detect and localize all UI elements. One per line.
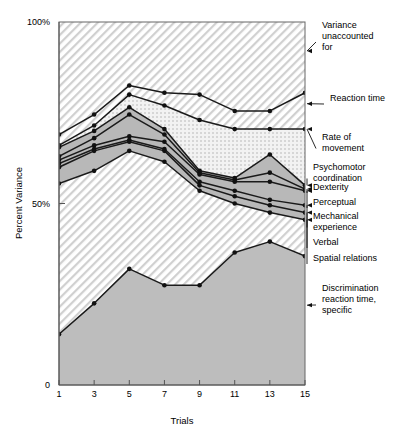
annotation-line: Variance [322, 20, 357, 30]
annotation-rate-of-movement: Rate ofmovement [322, 132, 365, 153]
annotation-line: movement [322, 143, 365, 153]
annotation-dexterity: Dexterity [313, 182, 349, 192]
annotation-line: specific [322, 305, 353, 315]
series-marker [197, 118, 202, 123]
series-marker [268, 179, 273, 184]
leader-arrow-variance-unaccounted-for [307, 49, 312, 53]
annotation-verbal: Verbal [313, 237, 339, 247]
series-marker [92, 301, 97, 306]
leader-line-rate-of-movement [307, 129, 316, 148]
series-marker [162, 103, 167, 108]
x-tick-15: 15 [300, 389, 310, 399]
series-marker [268, 210, 273, 215]
leader-arrow-discrimination-reaction-time [307, 303, 312, 307]
annotation-line: Perceptual [313, 197, 356, 207]
series-marker [127, 83, 132, 88]
annotation-line: Discrimination [322, 283, 379, 293]
y-tick-50: 50% [32, 199, 50, 209]
series-marker [268, 127, 273, 132]
annotation-line: Verbal [313, 237, 339, 247]
series-marker [127, 267, 132, 272]
annotation-spatial-relations: Spatial relations [313, 253, 378, 263]
x-tick-9: 9 [197, 389, 202, 399]
series-marker [232, 194, 237, 199]
chart-canvas: 100%50%013579111315 Varianceunaccountedf… [0, 0, 403, 437]
series-marker [232, 109, 237, 114]
series-marker [197, 283, 202, 288]
series-marker [268, 239, 273, 244]
series-marker [268, 198, 273, 203]
x-tick-1: 1 [56, 389, 61, 399]
y-axis-title: Percent Variance [13, 167, 24, 239]
x-tick-13: 13 [265, 389, 275, 399]
leader-arrow-mechanical-experience [307, 203, 312, 207]
series-marker [268, 203, 273, 208]
annotation-line: Mechanical [313, 211, 359, 221]
annotation-mechanical-experience: Mechanicalexperience [313, 211, 359, 232]
series-marker [162, 159, 167, 164]
series-marker [197, 183, 202, 188]
series-marker [268, 170, 273, 175]
annotation-line: for [322, 42, 333, 52]
annotation-discrimination-reaction-time: Discriminationreaction time,specific [322, 283, 379, 315]
series-marker [92, 149, 97, 154]
series-marker [162, 132, 167, 137]
leader-arrow-spatial-relations [307, 218, 312, 222]
series-marker [232, 250, 237, 255]
series-marker [92, 129, 97, 134]
annotation-line: Dexterity [313, 182, 349, 192]
series-marker [127, 92, 132, 97]
band-fills [59, 22, 305, 385]
annotation-line: reaction time, [322, 294, 376, 304]
series-marker [162, 139, 167, 144]
series-marker [197, 172, 202, 177]
series-marker [162, 149, 167, 154]
x-axis-title: Trials [171, 415, 194, 426]
series-marker [232, 179, 237, 184]
series-marker [127, 112, 132, 117]
annotation-line: experience [313, 222, 357, 232]
x-tick-5: 5 [127, 389, 132, 399]
series-marker [92, 112, 97, 117]
annotation-line: Spatial relations [313, 253, 378, 263]
variance-area-chart: 100%50%013579111315 Varianceunaccountedf… [0, 0, 403, 437]
series-marker [197, 188, 202, 193]
y-tick-100: 100% [27, 17, 50, 27]
series-marker [92, 169, 97, 174]
series-marker [232, 201, 237, 206]
series-marker [268, 109, 273, 114]
leader-arrow-psychomotor-coordination [307, 183, 312, 187]
leader-arrow-verbal [307, 210, 312, 214]
series-marker [232, 127, 237, 132]
series-marker [268, 152, 273, 157]
series-marker [197, 92, 202, 97]
x-tick-11: 11 [230, 389, 239, 399]
annotation-line: Rate of [322, 132, 352, 142]
annotation-psychomotor-coordination: Psychomotorcoordination [313, 162, 366, 183]
series-marker [92, 123, 97, 128]
series-marker [127, 149, 132, 154]
annotation-perceptual: Perceptual [313, 197, 356, 207]
leader-arrow-reaction-time [307, 101, 312, 105]
series-marker [127, 139, 132, 144]
annotation-line: Reaction time [330, 93, 385, 103]
series-marker [232, 188, 237, 193]
series-marker [162, 90, 167, 95]
series-marker [92, 136, 97, 141]
annotation-line: unaccounted [322, 31, 374, 41]
series-annotations: VarianceunaccountedforReaction timeRate … [307, 20, 385, 315]
series-marker [127, 105, 132, 110]
annotation-line: Psychomotor [313, 162, 366, 172]
annotation-variance-unaccounted-for: Varianceunaccountedfor [322, 20, 374, 52]
x-tick-3: 3 [92, 389, 97, 399]
series-marker [162, 127, 167, 132]
x-tick-7: 7 [162, 389, 167, 399]
plot-area [57, 22, 308, 385]
series-marker [162, 283, 167, 288]
y-tick-0: 0 [45, 380, 50, 390]
annotation-reaction-time: Reaction time [330, 93, 385, 103]
